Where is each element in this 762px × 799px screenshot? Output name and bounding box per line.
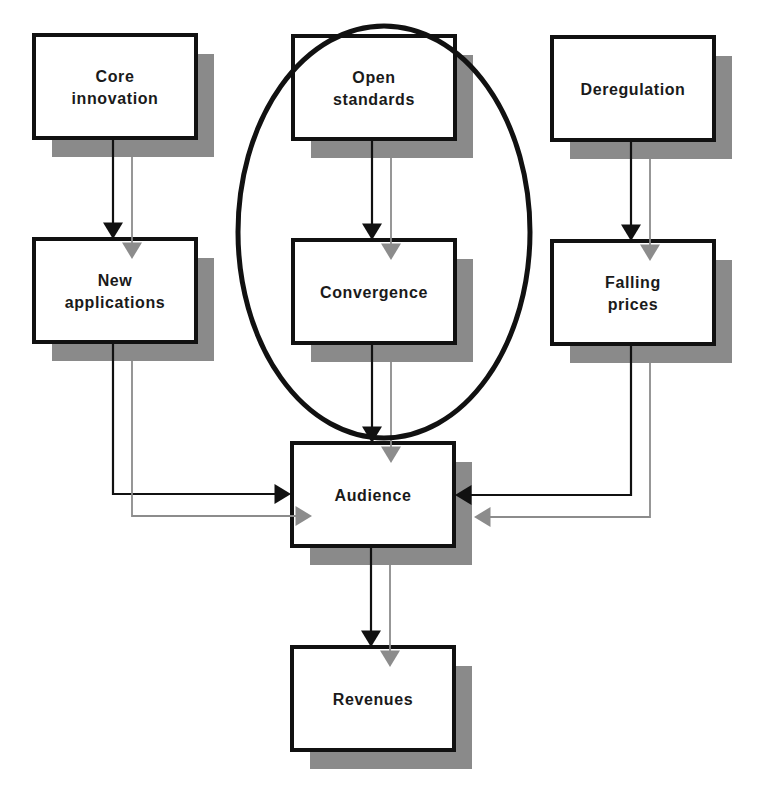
- dereg-label: Deregulation: [581, 81, 686, 98]
- open-to-conv-primary-arrowhead: [362, 224, 382, 241]
- conv-label: Convergence: [320, 284, 428, 301]
- core-label: Core: [96, 68, 135, 85]
- falling-to-audience-secondary-arrowhead: [474, 507, 491, 527]
- newapps-label: New: [98, 272, 133, 289]
- audience-to-revenues-primary-arrowhead: [361, 631, 381, 648]
- falling-box: [552, 241, 714, 344]
- dereg-to-falling-primary-arrowhead: [621, 225, 641, 242]
- audience-label: Audience: [335, 487, 412, 504]
- open-label: Open: [352, 69, 395, 86]
- flow-diagram: CoreinnovationOpenstandardsDeregulationN…: [0, 0, 762, 799]
- core-label: innovation: [72, 90, 159, 107]
- newapps-label: applications: [65, 294, 166, 311]
- revenues-label: Revenues: [333, 691, 413, 708]
- falling-label: Falling: [605, 274, 661, 291]
- newapps-to-audience-primary-arrowhead: [275, 484, 292, 504]
- core-box: [34, 35, 196, 138]
- falling-label: prices: [608, 296, 659, 313]
- core-to-newapps-primary-arrowhead: [103, 223, 123, 240]
- newapps-box: [34, 239, 196, 342]
- open-label: standards: [333, 91, 415, 108]
- newapps-to-audience-primary-edge: [113, 344, 278, 494]
- newapps-to-audience-secondary-edge: [132, 361, 296, 516]
